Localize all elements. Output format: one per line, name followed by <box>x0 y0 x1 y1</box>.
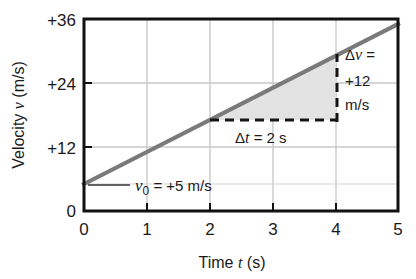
x-tick-label-1: 1 <box>142 220 151 239</box>
x-axis-title-suffix: (s) <box>242 254 265 271</box>
initial-velocity-rest: = +5 m/s <box>149 177 212 194</box>
x-tick-label-0: 0 <box>79 220 88 239</box>
delta-v-rest: = <box>362 46 375 63</box>
y-tick-label-24: +24 <box>47 75 76 94</box>
delta-v-annotation-line3: m/s <box>345 96 369 113</box>
x-axis-title: Time t (s) <box>199 254 266 271</box>
x-tick-label-3: 3 <box>268 220 277 239</box>
x-tick-label-5: 5 <box>393 220 402 239</box>
delta-v-prefix: Δ <box>345 46 355 63</box>
x-tick-label-2: 2 <box>205 220 214 239</box>
delta-v-annotation-line1: Δv = <box>345 46 375 63</box>
y-axis-title-prefix: Velocity <box>10 109 27 169</box>
delta-t-prefix: Δ <box>235 129 245 146</box>
chart-screenshot: +36 +24 +12 0 0 1 2 3 4 5 Velocity v (m/… <box>0 0 416 279</box>
y-tick-label-36: +36 <box>47 11 76 30</box>
y-axis-title-suffix: (m/s) <box>10 61 27 102</box>
velocity-time-chart: +36 +24 +12 0 0 1 2 3 4 5 Velocity v (m/… <box>0 0 416 279</box>
x-axis-title-prefix: Time <box>199 254 238 271</box>
y-tick-label-12: +12 <box>47 139 76 158</box>
delta-v-annotation-line2: +12 <box>345 72 370 89</box>
y-tick-label-0: 0 <box>67 202 76 221</box>
x-tick-label-4: 4 <box>331 220 340 239</box>
delta-t-rest: = 2 s <box>249 129 286 146</box>
y-axis-title: Velocity v (m/s) <box>10 61 27 169</box>
delta-t-annotation: Δt = 2 s <box>235 129 287 146</box>
